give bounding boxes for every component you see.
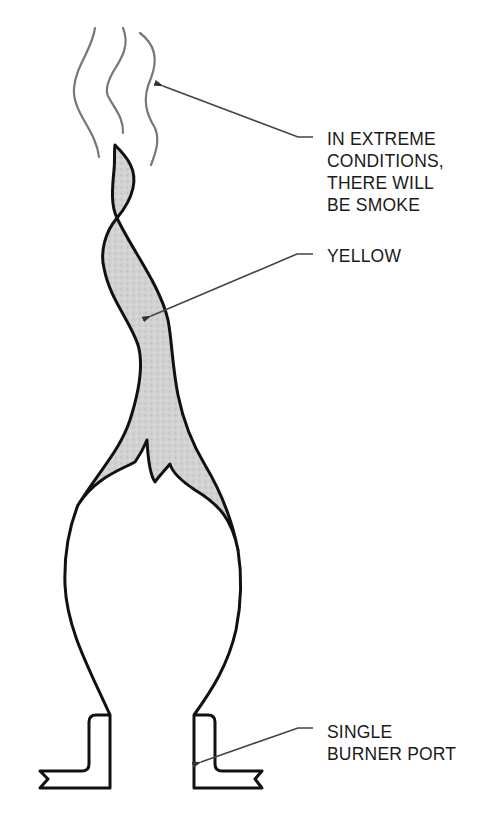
label-burner-port-line-1: SINGLE [327,721,456,743]
inner-cone [65,505,241,715]
right-burner-port [194,715,262,788]
leader-burner-port [201,728,313,762]
label-smoke-line-3: THERE WILL [327,172,444,194]
smoke-wisp-middle [107,28,126,133]
inner-cone-right [194,550,241,715]
leader-smoke [163,86,313,137]
label-smoke-line-4: BE SMOKE [327,194,444,216]
flame-main-body [78,218,238,550]
yellow-flame-region [78,145,238,550]
flame-diagram [0,0,495,820]
label-burner-port-line-2: BURNER PORT [327,743,456,765]
flame-tip-lobe [112,145,134,218]
smoke-wisp-right [140,33,157,165]
label-yellow: YELLOW [327,245,401,267]
left-burner-port [40,715,110,788]
label-smoke-line-2: CONDITIONS, [327,150,444,172]
leader-yellow [151,254,313,316]
inner-cone-left [65,505,110,715]
label-yellow-line-1: YELLOW [327,245,401,267]
label-burner-port: SINGLE BURNER PORT [327,721,456,765]
label-smoke-line-1: IN EXTREME [327,128,444,150]
label-smoke: IN EXTREME CONDITIONS, THERE WILL BE SMO… [327,128,444,216]
smoke-wisp-left [74,28,99,157]
